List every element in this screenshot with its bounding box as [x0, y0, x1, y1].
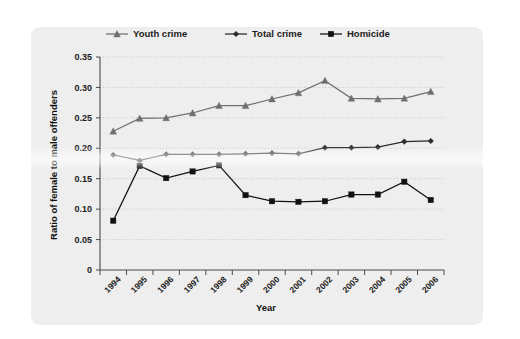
data-point-marker	[349, 192, 354, 197]
y-tick-label: 0.10	[74, 204, 92, 214]
y-tick-label: 0.30	[74, 83, 92, 93]
legend-label-total-crime: Total crime	[252, 28, 302, 39]
data-point-marker	[295, 90, 302, 96]
data-point-marker	[243, 192, 248, 197]
data-point-marker	[428, 138, 434, 144]
series-line	[113, 165, 431, 220]
y-axis-title: Ratio of female to male offenders	[48, 90, 59, 240]
data-point-marker	[110, 152, 116, 158]
x-axis-title: Year	[256, 302, 276, 313]
data-point-marker	[322, 145, 328, 151]
axes	[96, 57, 444, 275]
legend-label-youth-crime: Youth crime	[133, 28, 187, 39]
series-line	[113, 81, 431, 132]
chart-legend: Youth crimeTotal crimeHomicide	[106, 28, 390, 39]
x-tick-label: 2006	[420, 274, 441, 295]
data-point-marker	[322, 199, 327, 204]
data-point-marker	[427, 88, 434, 94]
series-homicide	[111, 163, 434, 224]
data-point-marker	[137, 163, 142, 168]
y-tick-label: 0.35	[74, 52, 92, 62]
data-point-marker	[243, 151, 249, 157]
data-point-marker	[322, 77, 329, 83]
data-point-marker	[402, 139, 408, 145]
x-tick-label: 1998	[208, 274, 229, 295]
series-total-crime	[110, 138, 433, 163]
data-point-marker	[111, 218, 116, 223]
series-youth-crime	[110, 77, 434, 134]
x-tick-label: 2001	[287, 274, 308, 295]
x-tick-label: 2005	[393, 274, 414, 295]
x-tick-label: 1994	[102, 274, 123, 295]
data-point-marker	[269, 199, 274, 204]
x-tick-label: 2002	[314, 274, 335, 295]
data-point-marker	[216, 163, 221, 168]
x-axis-tick-labels: 1994199519961997199819992000200120022003…	[102, 274, 440, 295]
data-point-marker	[428, 197, 433, 202]
data-point-marker	[375, 192, 380, 197]
data-series	[110, 77, 434, 223]
y-tick-label: 0.25	[74, 113, 92, 123]
y-tick-label: 0.05	[74, 235, 92, 245]
data-point-marker	[269, 150, 275, 156]
data-point-marker	[163, 152, 169, 158]
gridlines	[100, 57, 444, 240]
data-point-marker	[137, 158, 143, 164]
y-tick-label: 0.20	[74, 143, 92, 153]
x-tick-label: 1995	[129, 274, 150, 295]
legend-label-homicide: Homicide	[347, 28, 390, 39]
data-point-marker	[163, 175, 168, 180]
data-point-marker	[402, 179, 407, 184]
x-tick-label: 1996	[155, 274, 176, 295]
x-tick-label: 2004	[367, 274, 388, 295]
data-point-marker	[216, 152, 222, 158]
x-tick-label: 2003	[340, 274, 361, 295]
data-point-marker	[349, 145, 355, 151]
y-tick-label: 0.15	[74, 174, 92, 184]
line-chart: 00.050.100.150.200.250.300.35 1994199519…	[0, 0, 520, 339]
data-point-marker	[328, 31, 333, 36]
data-point-marker	[190, 169, 195, 174]
y-tick-label: 0	[87, 265, 92, 275]
data-point-marker	[110, 128, 117, 134]
data-point-marker	[375, 144, 381, 150]
data-point-marker	[296, 199, 301, 204]
x-tick-label: 1997	[182, 274, 203, 295]
data-point-marker	[296, 151, 302, 157]
y-axis-tick-labels: 00.050.100.150.200.250.300.35	[74, 52, 92, 275]
x-tick-label: 2000	[261, 274, 282, 295]
x-tick-label: 1999	[235, 274, 256, 295]
data-point-marker	[190, 152, 196, 158]
data-point-marker	[233, 31, 239, 37]
